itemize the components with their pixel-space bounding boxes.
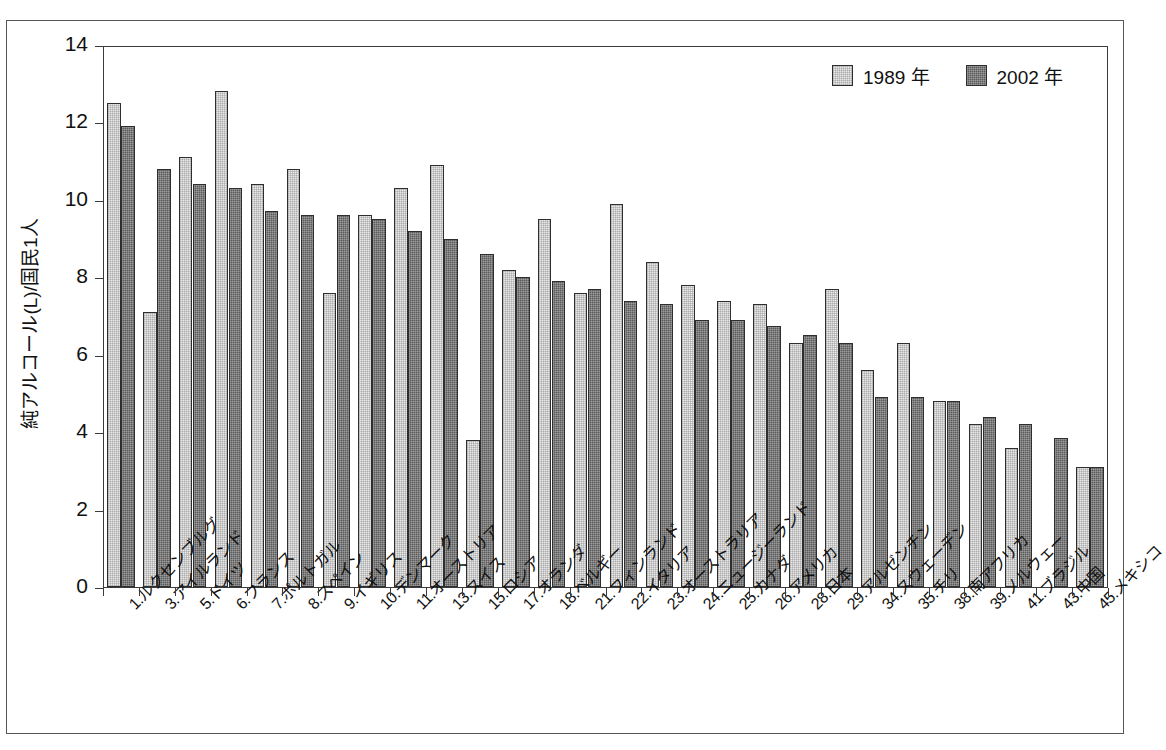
legend-swatch-icon [832, 65, 853, 86]
x-axis-tick-mark [641, 588, 642, 596]
bar-2002 [695, 320, 709, 587]
legend-label: 1989 年 [863, 62, 930, 89]
legend-label: 2002 年 [997, 62, 1064, 89]
bar-1989 [358, 215, 372, 587]
legend-item-2002: 2002 年 [966, 62, 1064, 89]
bar-2002 [157, 169, 171, 587]
y-axis-tick-label: 6 [48, 342, 88, 366]
bar-2002 [947, 401, 961, 587]
x-axis-tick-mark [1072, 588, 1073, 596]
x-axis-tick-mark [282, 588, 283, 596]
x-axis-tick-mark [175, 588, 176, 596]
plot-area [103, 46, 1108, 588]
x-axis-tick-mark [534, 588, 535, 596]
bar-2002 [516, 277, 530, 587]
x-axis-tick-mark [1108, 588, 1109, 596]
x-axis-tick-mark [713, 588, 714, 596]
x-axis-tick-mark [462, 588, 463, 596]
x-axis-tick-mark [498, 588, 499, 596]
x-axis-tick-mark [1000, 588, 1001, 596]
y-axis-title: 純アルコール(L)/国民1人 [15, 174, 42, 474]
y-axis-tick-label: 0 [48, 574, 88, 598]
legend-swatch-icon [966, 65, 987, 86]
x-axis-tick-mark [821, 588, 822, 596]
x-axis-tick-mark [247, 588, 248, 596]
x-axis-tick-mark [677, 588, 678, 596]
x-axis-tick-mark [749, 588, 750, 596]
x-axis-tick-mark [318, 588, 319, 596]
x-axis-tick-mark [390, 588, 391, 596]
x-axis-tick-mark [857, 588, 858, 596]
bar-1989 [251, 184, 265, 587]
bar-1989 [430, 165, 444, 587]
bar-1989 [394, 188, 408, 587]
bar-1989 [538, 219, 552, 587]
x-axis-tick-mark [211, 588, 212, 596]
x-axis-tick-mark [929, 588, 930, 596]
bar-2002 [372, 219, 386, 587]
bar-2002 [121, 126, 135, 587]
x-axis-tick-mark [1036, 588, 1037, 596]
bar-2002 [301, 215, 315, 587]
y-axis-tick-label: 10 [48, 187, 88, 211]
bar-1989 [107, 103, 121, 587]
bar-1989 [287, 169, 301, 587]
x-axis-tick-mark [139, 588, 140, 596]
y-axis-tick-label: 12 [48, 109, 88, 133]
x-axis-tick-mark [426, 588, 427, 596]
bar-1989 [179, 157, 193, 587]
x-axis-tick-mark [785, 588, 786, 596]
bar-2002 [337, 215, 351, 587]
x-axis-tick-mark [354, 588, 355, 596]
x-axis-tick-mark [570, 588, 571, 596]
bar-1989 [789, 343, 803, 587]
bar-1989 [215, 91, 229, 587]
x-axis-tick-mark [964, 588, 965, 596]
y-axis-tick-label: 14 [48, 32, 88, 56]
bar-2002 [408, 231, 422, 587]
bar-2002 [839, 343, 853, 587]
bar-1989 [143, 312, 157, 587]
y-axis-tick-label: 2 [48, 497, 88, 521]
x-axis-tick-mark [893, 588, 894, 596]
x-axis-tick-mark [103, 588, 104, 596]
bar-2002 [552, 281, 566, 587]
bar-2002 [588, 289, 602, 587]
bar-1989 [861, 370, 875, 587]
bar-1989 [502, 270, 516, 587]
x-axis-tick-mark [606, 588, 607, 596]
bar-2002 [265, 211, 279, 587]
y-axis-tick-label: 8 [48, 264, 88, 288]
bar-1989 [610, 204, 624, 587]
chart-legend: 1989 年2002 年 [832, 62, 1063, 89]
legend-item-1989: 1989 年 [832, 62, 930, 89]
bar-2002 [624, 301, 638, 587]
y-axis-tick-label: 4 [48, 419, 88, 443]
